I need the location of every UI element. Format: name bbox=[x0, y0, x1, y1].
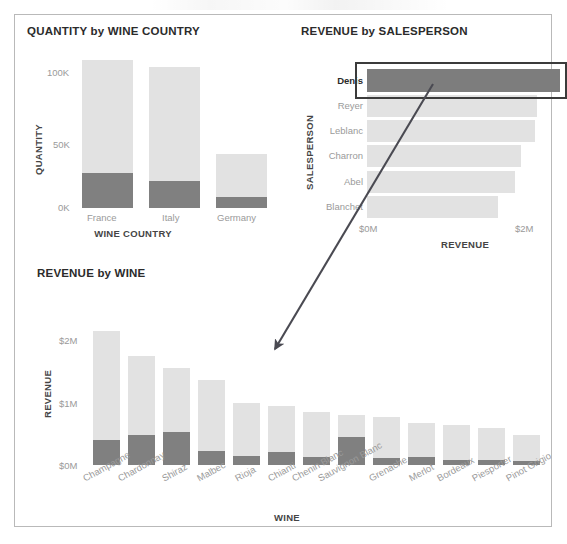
bar-italy[interactable] bbox=[149, 67, 200, 208]
panel-title-quantity-by-wine-country: QUANTITY by WINE COUNTRY bbox=[27, 25, 200, 37]
panel-revenue-by-salesperson[interactable]: REVENUE by SALESPERSON SALESPERSON Denis… bbox=[287, 15, 553, 253]
scan-artifact bbox=[150, 0, 450, 10]
bar-chardonnay-segment-other bbox=[128, 356, 155, 435]
bar-italy-segment-other bbox=[149, 67, 200, 181]
y-axis-title-quantity: QUANTITY bbox=[33, 124, 44, 175]
hbar-label-denis[interactable]: Denis bbox=[287, 75, 363, 86]
y-tick-2m-wine: $2M bbox=[59, 335, 77, 346]
x-axis-title-wine-country: WINE COUNTRY bbox=[94, 228, 172, 239]
bar-shiraz-segment-other bbox=[163, 368, 190, 432]
bar-malbec[interactable] bbox=[198, 380, 225, 465]
bar-merlot[interactable] bbox=[408, 423, 435, 465]
bar-italy-segment-selected bbox=[149, 181, 200, 208]
x-tick-0m-salesperson: $0M bbox=[359, 223, 377, 234]
selection-highlight-box[interactable] bbox=[355, 62, 567, 99]
hbar-label-abel[interactable]: Abel bbox=[287, 176, 363, 187]
x-label-france: France bbox=[87, 212, 117, 223]
bar-shiraz-segment-selected bbox=[163, 432, 190, 465]
y-tick-50k: 50K bbox=[53, 139, 70, 150]
bar-sauvignon-blanc-segment-other bbox=[338, 415, 365, 437]
y-tick-0m-wine: $0M bbox=[59, 460, 77, 471]
bar-germany-segment-selected bbox=[216, 197, 267, 208]
bar-rioja-segment-other bbox=[233, 403, 260, 456]
x-label-italy: Italy bbox=[162, 212, 179, 223]
bar-shiraz[interactable] bbox=[163, 368, 190, 465]
bar-chenin-blanc-segment-other bbox=[303, 412, 330, 457]
bar-rioja[interactable] bbox=[233, 403, 260, 465]
hbar-charron[interactable] bbox=[367, 145, 521, 167]
bar-france-segment-other bbox=[82, 60, 133, 173]
x-axis-title-revenue-salesperson: REVENUE bbox=[441, 239, 489, 250]
bar-chardonnay[interactable] bbox=[128, 356, 155, 465]
hbar-label-charron[interactable]: Charron bbox=[287, 150, 363, 161]
x-axis-title-wine: WINE bbox=[274, 512, 300, 523]
x-tick-2m-salesperson: $2M bbox=[515, 223, 533, 234]
bar-bordeaux-segment-other bbox=[443, 425, 470, 460]
hbar-label-blanchet[interactable]: Blanchet bbox=[287, 201, 363, 212]
bar-malbec-segment-other bbox=[198, 380, 225, 451]
y-tick-100k: 100K bbox=[47, 67, 69, 78]
wine-label-rioja: Rioja bbox=[233, 464, 257, 484]
bar-champagne[interactable] bbox=[93, 331, 120, 465]
bar-germany-segment-other bbox=[216, 154, 267, 197]
bar-merlot-segment-other bbox=[408, 423, 435, 457]
bar-champagne-segment-other bbox=[93, 331, 120, 440]
hbar-label-reyer[interactable]: Reyer bbox=[287, 100, 363, 111]
y-tick-0k: 0K bbox=[58, 202, 70, 213]
dashboard-frame: QUANTITY by WINE COUNTRY QUANTITY 100K 5… bbox=[14, 14, 552, 527]
y-tick-1m-wine: $1M bbox=[59, 398, 77, 409]
y-axis-title-revenue-wine: REVENUE bbox=[42, 370, 53, 418]
bar-germany[interactable] bbox=[216, 154, 267, 208]
hbar-blanchet[interactable] bbox=[367, 196, 498, 218]
hbar-leblanc[interactable] bbox=[367, 120, 535, 142]
bar-france[interactable] bbox=[82, 60, 133, 208]
panel-revenue-by-wine[interactable]: REVENUE by WINE REVENUE $2M $1M $0M bbox=[15, 253, 553, 528]
panel-title-revenue-by-wine: REVENUE by WINE bbox=[37, 267, 145, 279]
hbar-label-leblanc[interactable]: Leblanc bbox=[287, 125, 363, 136]
bar-piesporter-segment-other bbox=[478, 428, 505, 460]
hbar-abel[interactable] bbox=[367, 171, 515, 193]
x-label-germany: Germany bbox=[217, 212, 256, 223]
panel-title-revenue-by-salesperson: REVENUE by SALESPERSON bbox=[301, 25, 468, 37]
bar-france-segment-selected bbox=[82, 173, 133, 208]
bar-chianti[interactable] bbox=[268, 406, 295, 465]
bar-chianti-segment-other bbox=[268, 406, 295, 452]
panel-quantity-by-wine-country[interactable]: QUANTITY by WINE COUNTRY QUANTITY 100K 5… bbox=[15, 15, 287, 253]
bar-rioja-segment-selected bbox=[233, 456, 260, 465]
